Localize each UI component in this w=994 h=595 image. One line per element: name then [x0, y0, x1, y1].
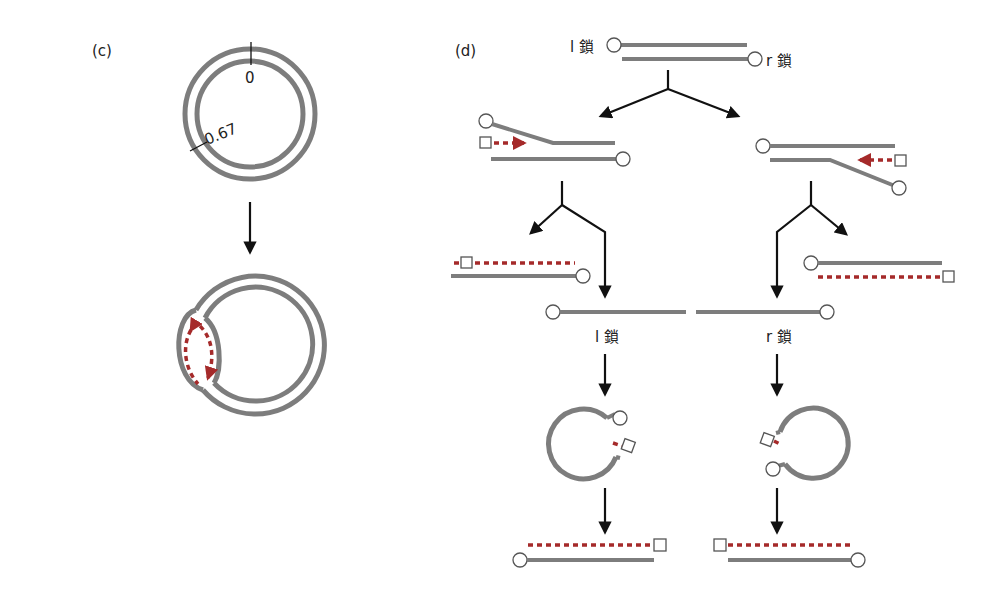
marker-zero: 0	[245, 69, 255, 87]
r-strand-label: r 鎖	[766, 52, 792, 70]
d-loop-intermediate	[179, 276, 325, 414]
l-strand-label: l 鎖	[570, 38, 594, 56]
mid-l-label: l 鎖	[595, 328, 619, 346]
panel-d: (d) l 鎖 r 鎖	[451, 38, 954, 567]
top-duplex: l 鎖 r 鎖	[570, 38, 792, 70]
final-left-duplex	[513, 539, 666, 567]
single-strands: l 鎖 r 鎖	[546, 305, 834, 346]
left-loop	[549, 409, 636, 479]
left-intermediate	[479, 114, 630, 166]
right-loop	[760, 408, 848, 478]
panel-c-label: (c)	[92, 42, 112, 60]
figure-canvas: (c) 0 0.67 (d) l 鎖 r 鎖	[0, 0, 994, 595]
panel-c: (c) 0 0.67	[92, 42, 324, 414]
right-displaced-product	[804, 256, 954, 282]
marker-067: 0.67	[202, 120, 240, 149]
circular-dna: 0 0.67	[185, 42, 315, 179]
left-displaced-product	[451, 257, 590, 283]
right-intermediate	[756, 139, 906, 195]
final-right-duplex	[714, 539, 865, 567]
panel-d-label: (d)	[455, 42, 476, 60]
mid-r-label: r 鎖	[766, 328, 792, 346]
